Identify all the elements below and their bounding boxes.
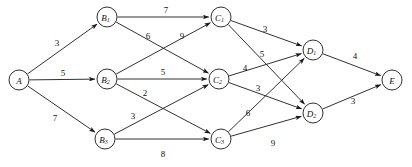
node-label-sub-b1: 1 [107, 17, 110, 23]
edge-weight-b1-c1: 7 [164, 5, 169, 15]
node-label-a: A [15, 76, 22, 86]
node-label-sub-b2: 2 [107, 79, 110, 85]
edge-weight-d1-e: 4 [353, 51, 358, 61]
node-c3[interactable]: C3 [211, 129, 231, 149]
edge-weight-c1-d1: 3 [263, 24, 268, 34]
node-label-base-e: E [388, 76, 395, 86]
edge-d1-e [323, 54, 381, 76]
node-label-sub-c3: 3 [220, 139, 224, 145]
node-b1[interactable]: B1 [97, 7, 117, 27]
node-label-e: E [388, 76, 395, 86]
edge-weight-b3-c3: 8 [161, 149, 166, 159]
node-label-sub-d2: 2 [313, 113, 316, 119]
nodes-layer: AB1B2B3C1C2C3D1D2E [9, 7, 402, 149]
edge-c2-d1 [229, 54, 301, 76]
edge-weight-b2-c2: 5 [161, 67, 166, 77]
node-label-sub-c1: 1 [221, 17, 224, 23]
node-b3[interactable]: B3 [95, 129, 115, 149]
edge-weight-c3-d1: 6 [246, 108, 251, 118]
node-d1[interactable]: D1 [303, 40, 323, 60]
edge-weight-b2-c3: 2 [143, 88, 148, 98]
edge-weight-c3-d2: 9 [271, 138, 276, 148]
node-label-sub-c2: 2 [219, 79, 222, 85]
edge-a-b3 [28, 86, 95, 132]
edge-weight-a-b2: 5 [61, 68, 66, 78]
node-c2[interactable]: C2 [209, 69, 229, 89]
edge-weight-c1-d2: 5 [260, 49, 265, 59]
edge-weight-b1-c2: 6 [146, 31, 151, 41]
edge-weight-a-b3: 7 [53, 113, 58, 123]
edge-a-b2 [29, 79, 94, 80]
edge-weight-b2-c1: 9 [180, 31, 185, 41]
node-label-sub-b3: 3 [104, 139, 108, 145]
network-diagram: 357769523835436943 AB1B2B3C1C2C3D1D2E [0, 0, 412, 167]
edge-weight-c2-d1: 4 [243, 63, 248, 73]
node-label-sub-d1: 1 [313, 50, 316, 56]
edge-b3-c2 [114, 85, 208, 134]
node-c1[interactable]: C1 [211, 7, 231, 27]
graph-canvas: 357769523835436943 AB1B2B3C1C2C3D1D2E [0, 0, 412, 167]
edge-weight-a-b1: 3 [55, 38, 60, 48]
node-d2[interactable]: D2 [303, 103, 323, 123]
edge-weight-d2-e: 3 [351, 96, 356, 106]
node-label-base-a: A [15, 76, 22, 86]
edges-layer [28, 17, 381, 139]
node-a[interactable]: A [9, 70, 29, 90]
edge-a-b1 [28, 24, 98, 74]
edge-c3-d1 [229, 58, 305, 131]
node-e[interactable]: E [382, 70, 402, 90]
node-b2[interactable]: B2 [97, 69, 117, 89]
edge-weight-c2-d2: 3 [256, 83, 261, 93]
edge-weight-b3-c2: 3 [131, 111, 136, 121]
edge-b1-c2 [116, 22, 208, 73]
